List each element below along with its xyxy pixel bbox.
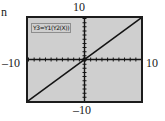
x-max-label: 10 [146,57,158,70]
calculator-graph-figure: n Y3=Y1(Y2(X)) 10 –10 10 –10 [0,0,165,121]
expression-label: Y3=Y1(Y2(X)) [31,23,71,33]
origin-marker [82,57,86,61]
calculator-screen: Y3=Y1(Y2(X)) [26,16,143,103]
x-min-label: –10 [2,57,20,70]
cropped-edge-character: n [1,6,9,19]
y-max-label: 10 [73,1,85,14]
y-min-label: –10 [73,104,91,117]
